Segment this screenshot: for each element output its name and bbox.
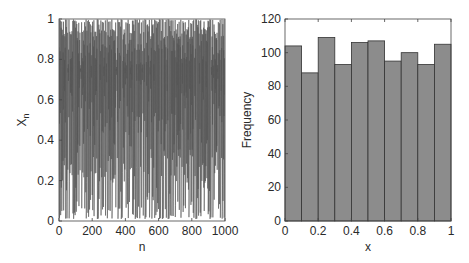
y-tick-label: 60 xyxy=(268,113,282,127)
y-tick-label: 0.4 xyxy=(37,133,54,147)
y-tick-label: 120 xyxy=(261,12,281,26)
figure: 0200400600800100000.20.40.60.81nXn 00.20… xyxy=(0,0,469,263)
series-line xyxy=(59,20,225,219)
y-tick-label: 40 xyxy=(268,147,282,161)
x-tick-label: 800 xyxy=(182,224,202,238)
x-tick-label: 0.8 xyxy=(409,224,426,238)
x-tick-label: 0.4 xyxy=(343,224,360,238)
x-tick-label: 600 xyxy=(149,224,169,238)
time-series-plot: 0200400600800100000.20.40.60.81nXn xyxy=(15,12,239,254)
x-tick-label: 400 xyxy=(115,224,135,238)
y-tick-label: 1 xyxy=(47,12,54,26)
y-tick-label: 20 xyxy=(268,180,282,194)
y-tick-label: 0.2 xyxy=(37,174,54,188)
x-tick-label: 0 xyxy=(56,224,63,238)
histogram-bar xyxy=(418,64,435,221)
y-tick-label: 0 xyxy=(47,214,54,228)
histogram-bar xyxy=(318,38,335,221)
histogram-bar xyxy=(434,44,451,221)
y-axis-label: Frequency xyxy=(240,92,254,149)
y-tick-label: 0.8 xyxy=(37,52,54,66)
x-axis-label: n xyxy=(139,240,146,254)
x-tick-label: 1 xyxy=(448,224,455,238)
histogram-bar xyxy=(401,53,418,221)
x-tick-label: 200 xyxy=(82,224,102,238)
histogram-bar xyxy=(368,41,385,221)
histogram-bar xyxy=(302,73,319,221)
histogram-bar xyxy=(285,46,302,221)
x-tick-label: 0.2 xyxy=(310,224,327,238)
x-tick-label: 0 xyxy=(282,224,289,238)
y-axis-label: Xn xyxy=(15,113,31,126)
x-tick-label: 1000 xyxy=(212,224,239,238)
histogram-bar xyxy=(351,43,368,221)
histogram-plot: 00.20.40.60.81020406080100120xFrequency xyxy=(240,12,455,254)
y-tick-label: 0 xyxy=(274,214,281,228)
x-tick-label: 0.6 xyxy=(376,224,393,238)
histogram-bar xyxy=(385,61,402,221)
histogram-bar xyxy=(335,64,352,221)
y-tick-label: 0.6 xyxy=(37,93,54,107)
x-axis-label: x xyxy=(365,240,371,254)
y-tick-label: 80 xyxy=(268,79,282,93)
y-tick-label: 100 xyxy=(261,46,281,60)
